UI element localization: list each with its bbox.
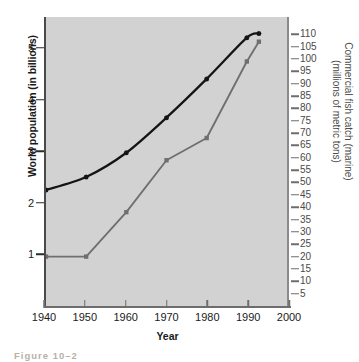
x-tick-label: 2000 bbox=[277, 312, 301, 323]
figure-caption: Figure 10–2 bbox=[14, 350, 78, 361]
x-tick-mark bbox=[288, 300, 290, 308]
x-tick-label: 1990 bbox=[236, 312, 260, 323]
x-axis-title: Year bbox=[44, 330, 291, 342]
x-tick-mark bbox=[247, 300, 249, 308]
x-tick-mark bbox=[43, 300, 45, 308]
x-tick-label: 1980 bbox=[195, 312, 219, 323]
x-tick-mark bbox=[125, 300, 127, 308]
x-axis-ticks: 1940195019601970198019902000 bbox=[0, 0, 359, 362]
x-tick-mark bbox=[207, 300, 209, 308]
x-tick-label: 1960 bbox=[113, 312, 137, 323]
x-tick-label: 1940 bbox=[32, 312, 56, 323]
x-tick-mark bbox=[166, 300, 168, 308]
x-tick-label: 1950 bbox=[73, 312, 97, 323]
figure-container: World population (in billions) 12345 110… bbox=[0, 0, 359, 362]
x-tick-mark bbox=[84, 300, 86, 308]
x-tick-label: 1970 bbox=[154, 312, 178, 323]
